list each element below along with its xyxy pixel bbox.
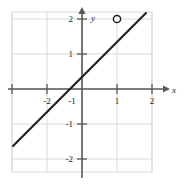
y-axis-arrowhead-icon [78,7,85,14]
y-tick-label-neg1: -1 [66,119,74,129]
axes [8,7,170,178]
x-tick-label-pos2: 2 [150,96,155,106]
open-circle-marker-icon [113,15,120,22]
y-tick-label-pos1: 1 [69,49,74,59]
x-tick-label-neg2: -2 [43,96,51,106]
data-series-line [13,13,146,146]
y-tick-label-pos2: 2 [69,14,74,24]
graph-figure: -2 -1 1 2 2 1 -1 -2 x y [0,0,183,184]
x-tick-label-pos1: 1 [115,96,120,106]
line-y-equals-x-plus-1 [13,13,146,146]
open-circle-point [113,15,120,22]
x-axis-arrowhead-icon [163,85,170,92]
x-axis-label: x [171,85,176,95]
y-axis-label: y [90,13,95,23]
x-tick-label-neg1: -1 [68,96,76,106]
y-tick-label-neg2: -2 [66,154,74,164]
cartesian-plot: -2 -1 1 2 2 1 -1 -2 x y [0,0,183,184]
